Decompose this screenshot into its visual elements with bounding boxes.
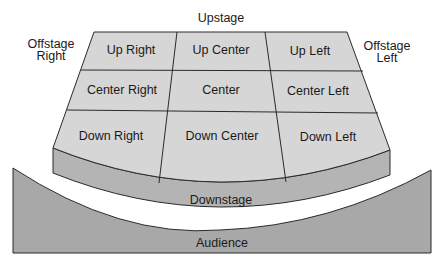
offstage-left-label-line2: Left xyxy=(377,51,398,65)
area-center-left: Center Left xyxy=(287,84,349,98)
upstage-label: Upstage xyxy=(198,11,245,25)
area-down-right: Down Right xyxy=(79,129,144,143)
audience-label: Audience xyxy=(196,236,248,250)
offstage-right-label-line2: Right xyxy=(36,49,66,63)
stage-diagram: Upstage Offstage Right Offstage Left Up … xyxy=(0,0,439,265)
downstage-label: Downstage xyxy=(190,193,253,207)
area-down-center: Down Center xyxy=(186,129,259,143)
area-up-center: Up Center xyxy=(193,43,250,57)
area-center-right: Center Right xyxy=(87,83,158,97)
area-center: Center xyxy=(202,83,240,97)
area-down-left: Down Left xyxy=(300,130,357,144)
area-up-left: Up Left xyxy=(290,44,331,58)
area-up-right: Up Right xyxy=(107,43,156,57)
